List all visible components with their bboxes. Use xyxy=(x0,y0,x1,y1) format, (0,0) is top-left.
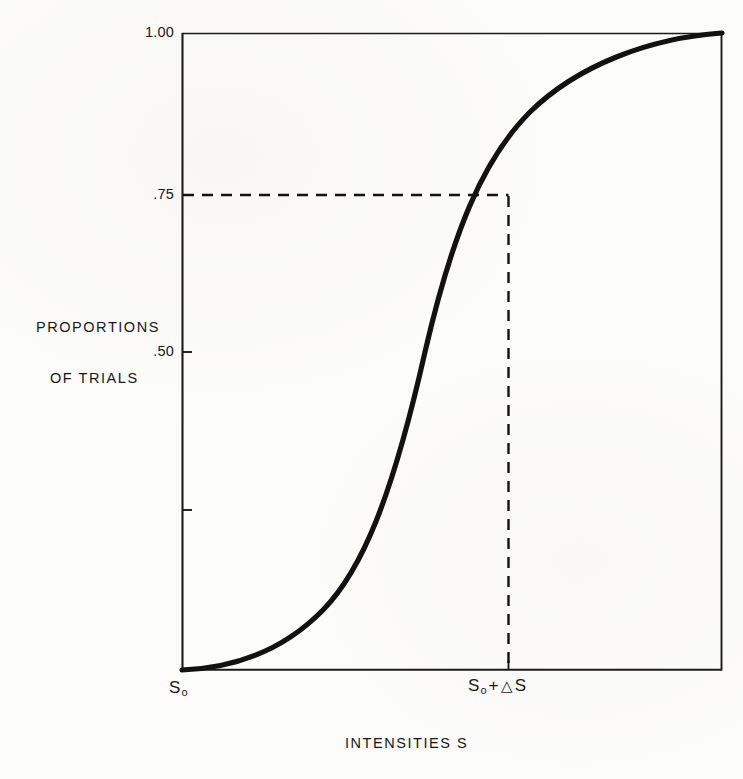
y-axis-title-line-1: PROPORTIONS xyxy=(36,319,160,335)
x-tick-label-s-zero: So xyxy=(169,678,188,698)
s-symbol-trailing: S xyxy=(515,676,527,695)
y-axis-ticks xyxy=(183,195,193,510)
psychometric-curve xyxy=(182,33,722,670)
plus-operator: + xyxy=(487,676,501,695)
delta-triangle-icon: △ xyxy=(500,677,515,694)
s-subscript: o xyxy=(181,686,188,698)
plot-svg xyxy=(0,0,743,779)
x-axis-title: INTENSITIES S xyxy=(345,735,468,751)
s-symbol: S xyxy=(468,676,480,695)
s-subscript: o xyxy=(480,684,487,696)
y-tick-label-0.75: .75 xyxy=(118,186,174,202)
psychometric-function-figure: 1.00 .75 .50 PROPORTIONS OF TRIALS So So… xyxy=(0,0,743,779)
y-tick-label-0.50: .50 xyxy=(118,343,174,359)
s-symbol: S xyxy=(169,678,181,697)
x-tick-label-s-zero-plus-delta-s: So+△S xyxy=(468,676,527,696)
plot-frame xyxy=(182,33,722,671)
y-axis-title-line-2: OF TRIALS xyxy=(50,370,139,386)
y-tick-label-1.00: 1.00 xyxy=(118,24,174,40)
